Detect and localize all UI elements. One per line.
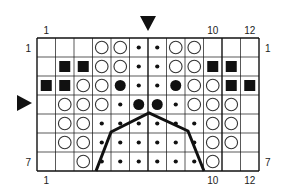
small-dot-icon — [118, 159, 122, 163]
open-circle-icon — [206, 98, 219, 111]
filled-square-icon — [226, 61, 237, 72]
open-circle-icon — [114, 60, 127, 73]
filled-square-icon — [59, 80, 70, 91]
open-circle-icon — [169, 41, 182, 54]
small-dot-icon — [100, 140, 104, 144]
small-dot-icon — [174, 102, 178, 106]
shaping-outline — [96, 113, 204, 171]
small-dot-icon — [118, 102, 122, 106]
open-circle-icon — [95, 79, 108, 92]
open-circle-icon — [114, 41, 127, 54]
small-dot-icon — [100, 121, 104, 125]
open-circle-icon — [225, 117, 238, 130]
filled-square-icon — [244, 80, 255, 91]
center-column-arrow-icon — [140, 16, 156, 31]
small-dot-icon — [137, 121, 141, 125]
row-number-label: 1 — [25, 43, 31, 54]
column-number-label: 10 — [207, 175, 219, 186]
open-circle-icon — [206, 79, 219, 92]
open-circle-icon — [188, 60, 201, 73]
column-number-label: 1 — [43, 175, 49, 186]
open-circle-icon — [188, 98, 201, 111]
row-number-label: 7 — [265, 157, 271, 168]
open-circle-icon — [206, 136, 219, 149]
row-number-label: 7 — [25, 157, 31, 168]
open-circle-icon — [58, 98, 71, 111]
small-dot-icon — [137, 140, 141, 144]
large-filled-circle-icon — [152, 99, 163, 110]
small-dot-icon — [155, 83, 159, 87]
open-circle-icon — [225, 136, 238, 149]
open-circle-icon — [77, 117, 90, 130]
small-dot-icon — [192, 121, 196, 125]
shaping-line — [96, 113, 204, 171]
chart-grid — [37, 38, 259, 171]
knitting-chart: 11012110121717 — [0, 0, 287, 190]
filled-square-icon — [59, 61, 70, 72]
column-number-label: 12 — [244, 175, 256, 186]
small-dot-icon — [174, 140, 178, 144]
open-circle-icon — [188, 41, 201, 54]
large-filled-circle-icon — [170, 80, 181, 91]
row-number-label: 1 — [265, 43, 271, 54]
open-circle-icon — [95, 98, 108, 111]
open-circle-icon — [77, 98, 90, 111]
open-circle-icon — [58, 117, 71, 130]
small-dot-icon — [155, 121, 159, 125]
small-dot-icon — [174, 159, 178, 163]
open-circle-icon — [206, 155, 219, 168]
open-circle-icon — [58, 136, 71, 149]
column-number-label: 1 — [43, 25, 49, 36]
small-dot-icon — [118, 140, 122, 144]
open-circle-icon — [95, 60, 108, 73]
open-circle-icon — [206, 117, 219, 130]
filled-square-icon — [207, 61, 218, 72]
filled-square-icon — [226, 80, 237, 91]
open-circle-icon — [77, 79, 90, 92]
filled-square-icon — [41, 80, 52, 91]
open-circle-icon — [169, 60, 182, 73]
small-dot-icon — [192, 159, 196, 163]
large-filled-circle-icon — [133, 99, 144, 110]
open-circle-icon — [188, 79, 201, 92]
open-circle-icon — [77, 136, 90, 149]
small-dot-icon — [155, 140, 159, 144]
large-filled-circle-icon — [115, 80, 126, 91]
center-row-arrow-icon — [17, 95, 32, 111]
open-circle-icon — [225, 98, 238, 111]
open-circle-icon — [77, 155, 90, 168]
column-number-label: 10 — [207, 25, 219, 36]
small-dot-icon — [137, 64, 141, 68]
open-circle-icon — [95, 41, 108, 54]
small-dot-icon — [137, 159, 141, 163]
filled-square-icon — [78, 61, 89, 72]
column-number-label: 12 — [244, 25, 256, 36]
small-dot-icon — [155, 159, 159, 163]
small-dot-icon — [137, 83, 141, 87]
small-dot-icon — [155, 45, 159, 49]
small-dot-icon — [137, 45, 141, 49]
small-dot-icon — [155, 64, 159, 68]
